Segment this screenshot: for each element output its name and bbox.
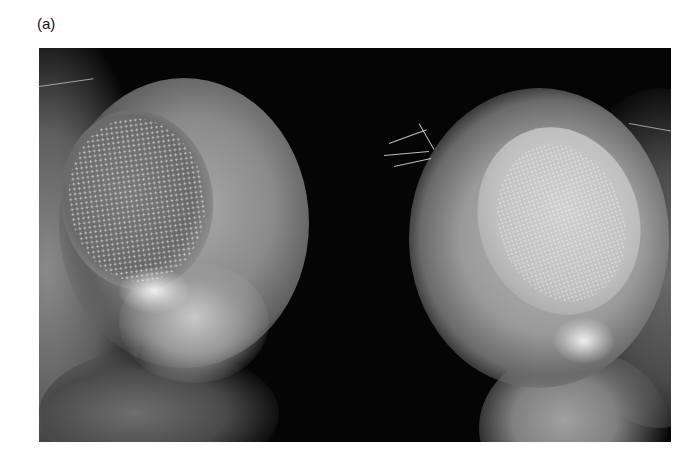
fly-head-micrograph [39,48,671,442]
right-fly-bristle [419,123,435,149]
panel-label: (a) [37,15,55,32]
right-eye-highlight [554,318,614,363]
left-eye-highlight [119,268,189,313]
right-fly-bristle [389,129,427,144]
right-fly-bristle [384,151,429,156]
